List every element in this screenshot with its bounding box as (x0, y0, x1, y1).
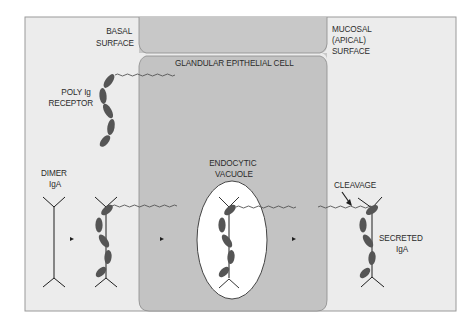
poly-ig-receptor-label: POLY Ig (61, 88, 91, 97)
cell-name-label: GLANDULAR EPITHELIAL CELL (175, 59, 294, 68)
svg-text:MUCOSAL (APICAL) SURFA: MUCOSAL (APICAL) SURFACE (332, 25, 374, 56)
endocytic-vacuole-label: ENDOCYTIC (209, 159, 257, 168)
dimer-iga-label: DIMER (41, 169, 67, 178)
cleavage-label: CLEAVAGE (334, 181, 377, 190)
iga-transcytosis-diagram: BASAL SURFACE MUCOSAL (APICAL) SURFACE G… (0, 0, 476, 325)
junction-band-outline (139, 17, 327, 53)
basal-surface-label: BASAL (106, 27, 132, 36)
mucosal-surface-label: MUCOSAL (332, 25, 372, 34)
secreted-iga-label: SECRETED (379, 234, 423, 243)
